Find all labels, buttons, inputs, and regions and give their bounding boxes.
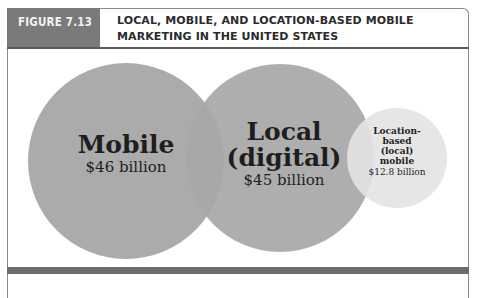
local-label: Local (digital) $45 billion xyxy=(214,119,354,189)
local-value: $45 billion xyxy=(214,171,354,189)
location-name-line4: mobile xyxy=(353,156,441,166)
location-label: Location- based (local) mobile $12.8 bil… xyxy=(353,126,441,178)
mobile-value: $46 billion xyxy=(56,158,196,176)
bottom-divider xyxy=(7,267,469,274)
location-name-line1: Location- xyxy=(353,126,441,136)
mobile-name: Mobile xyxy=(56,132,196,158)
location-name-line3: (local) xyxy=(353,146,441,156)
local-name-line2: (digital) xyxy=(214,145,354,171)
local-name-line1: Local xyxy=(214,119,354,145)
location-name-line2: based xyxy=(353,136,441,146)
mobile-label: Mobile $46 billion xyxy=(56,132,196,176)
location-value: $12.8 billion xyxy=(353,166,441,178)
